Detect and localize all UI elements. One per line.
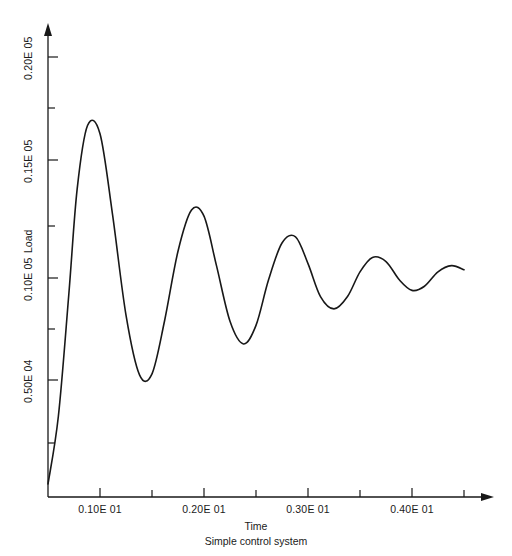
chart-container: 0.50E 04 0.10E 05 0.15E 05 0.20E 05 Load… (0, 0, 512, 556)
data-series-line (48, 120, 464, 484)
x-axis-ticks (100, 488, 464, 497)
y-axis-arrow-icon (44, 23, 52, 36)
y-axis-title: Load (22, 230, 34, 253)
y-axis-ticks (48, 57, 58, 443)
chart-caption: Simple control system (0, 535, 512, 547)
plot-area (0, 0, 512, 556)
x-axis-title: Time (0, 520, 512, 532)
x-tick-label-2: 0.20E 01 (174, 503, 234, 515)
y-tick-label-15000: 0.15E 05 (22, 139, 34, 183)
x-tick-label-3: 0.30E 01 (278, 503, 338, 515)
x-axis-arrow-icon (481, 493, 494, 501)
y-tick-label-20000: 0.20E 05 (22, 36, 34, 80)
y-tick-label-5000: 0.50E 04 (22, 359, 34, 403)
x-tick-label-1: 0.10E 01 (70, 503, 130, 515)
x-tick-label-4: 0.40E 01 (382, 503, 442, 515)
y-tick-label-10000: 0.10E 05 (22, 257, 34, 301)
